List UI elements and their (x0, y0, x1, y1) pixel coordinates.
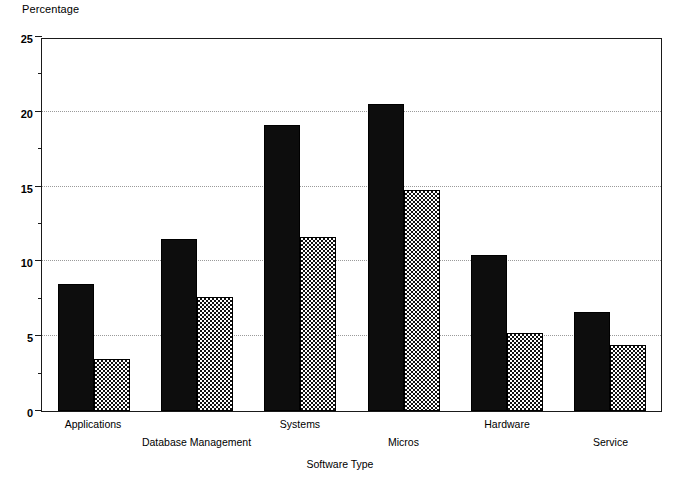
bar-group (248, 39, 351, 411)
clipped-chart-title (0, 0, 680, 3)
y-tick-label-15: 15 (21, 183, 33, 195)
y-axis-title: Percentage (22, 3, 79, 15)
y-tick-major-5 (35, 335, 42, 336)
y-tick-label-10: 10 (21, 257, 33, 269)
y-tick-major-0 (35, 410, 42, 411)
bar (471, 255, 507, 411)
bar (161, 239, 197, 411)
bar (300, 237, 336, 411)
plot-area: 0510152025 (41, 38, 662, 412)
bar (264, 125, 300, 411)
bar (94, 359, 130, 411)
y-tick-major-25 (35, 36, 42, 37)
bar-group (145, 39, 248, 411)
y-tick-label-20: 20 (21, 108, 33, 120)
x-tick-label: Database Management (142, 436, 251, 448)
x-tick-label: Service (593, 436, 628, 448)
bar-group (455, 39, 558, 411)
bar (574, 312, 610, 411)
bar-group (42, 39, 145, 411)
x-axis-tick-labels: ApplicationsDatabase ManagementSystemsMi… (41, 414, 662, 456)
y-tick-major-20 (35, 111, 42, 112)
y-tick-label-25: 25 (21, 33, 33, 45)
y-tick-major-10 (35, 260, 42, 261)
x-tick-label: Applications (65, 418, 122, 430)
bar-chart: Percentage 0510152025 ApplicationsDataba… (0, 0, 680, 480)
bar-group (352, 39, 455, 411)
bar (507, 333, 543, 411)
x-tick-label: Micros (388, 436, 419, 448)
y-tick-major-15 (35, 186, 42, 187)
bar (610, 345, 646, 411)
bar-group (558, 39, 661, 411)
x-axis-title: Software Type (0, 458, 680, 470)
y-tick-label-0: 0 (27, 407, 33, 419)
bar-groups (42, 39, 661, 411)
y-tick-label-5: 5 (27, 332, 33, 344)
bar (404, 190, 440, 411)
bar (368, 104, 404, 411)
x-tick-label: Systems (280, 418, 320, 430)
bar (197, 297, 233, 411)
bar (58, 284, 94, 411)
x-tick-label: Hardware (484, 418, 530, 430)
